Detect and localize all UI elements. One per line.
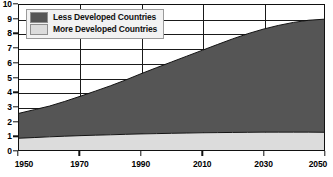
y-tick-label-5: 5 [7,73,12,82]
legend-swatch-more-developed [30,24,48,35]
x-tick-label-2010: 2010 [193,160,212,169]
legend-label-more-developed: More Developed Countries [53,25,157,34]
legend-item-more-developed: More Developed Countries [30,24,157,35]
y-tick-label-1: 1 [7,132,12,141]
x-tick-mark-1970 [79,151,80,156]
y-axis: 012345678910 [0,0,18,155]
x-axis: 195019701990201020302050 [0,151,333,177]
x-tick-label-1990: 1990 [132,160,151,169]
y-tick-label-9: 9 [7,14,12,23]
x-tick-label-1950: 1950 [15,160,34,169]
y-tick-label-4: 4 [7,88,12,97]
legend-swatch-less-developed [30,12,48,23]
x-tick-label-2030: 2030 [254,160,273,169]
x-tick-label-1970: 1970 [70,160,89,169]
legend-item-less-developed: Less Developed Countries [30,12,157,23]
x-tick-mark-1950 [17,151,18,156]
y-tick-label-3: 3 [7,103,12,112]
y-tick-label-2: 2 [7,117,12,126]
y-tick-label-6: 6 [7,59,12,68]
legend-label-less-developed: Less Developed Countries [53,13,156,22]
y-tick-label-8: 8 [7,29,12,38]
x-tick-mark-2010 [201,151,202,156]
y-tick-label-7: 7 [7,44,12,53]
x-tick-label-2050: 2050 [309,160,328,169]
x-tick-mark-2050 [324,151,325,156]
y-tick-label-10: 10 [3,0,12,8]
chart-legend: Less Developed Countries More Developed … [26,9,164,39]
x-tick-mark-2030 [263,151,264,156]
population-area-chart: 012345678910 195019701990201020302050 Le… [0,0,333,177]
x-tick-mark-1990 [140,151,141,156]
